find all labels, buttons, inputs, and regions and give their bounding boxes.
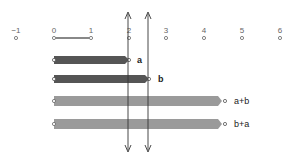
vector-label: a+b <box>234 96 249 106</box>
vector-a-plus-b: a+b <box>52 96 249 106</box>
tick-label: 1 <box>89 26 94 35</box>
start-point <box>52 77 55 80</box>
vector-b: b <box>52 74 164 84</box>
vector-bar <box>54 75 149 83</box>
end-point <box>223 122 226 125</box>
tick-point <box>240 36 243 39</box>
tick-label: −1 <box>11 26 21 35</box>
start-point <box>52 99 55 102</box>
tick-label: 5 <box>240 26 245 35</box>
vector-bar <box>54 56 129 64</box>
tick-point <box>164 36 167 39</box>
tick-label: 2 <box>127 26 132 35</box>
tick-label: 6 <box>278 26 283 35</box>
vector-b-plus-a: b+a <box>52 119 249 129</box>
end-point <box>223 99 226 102</box>
vector-a: a <box>52 55 143 65</box>
tick-point <box>278 36 281 39</box>
vector-bar <box>54 119 222 129</box>
tick-label: 0 <box>52 26 57 35</box>
number-line: −1 0 1 2 3 4 5 6 <box>11 26 282 40</box>
tick-label: 4 <box>202 26 207 35</box>
vector-label: b+a <box>234 119 249 129</box>
tick-point <box>89 36 92 39</box>
vector-label: b <box>158 74 164 84</box>
vector-bar <box>54 96 222 106</box>
start-point <box>52 58 55 61</box>
vector-addition-diagram: −1 0 1 2 3 4 5 6 a b a+b <box>0 0 298 158</box>
vector-label: a <box>137 55 143 65</box>
tick-point <box>52 36 55 39</box>
start-point <box>52 122 55 125</box>
tick-label: 3 <box>164 26 169 35</box>
tick-point <box>202 36 205 39</box>
tick-point <box>14 36 17 39</box>
